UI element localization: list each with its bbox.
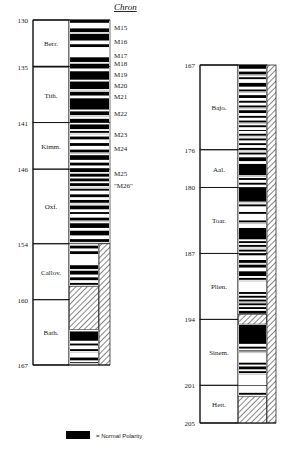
normal-polarity-band	[70, 57, 109, 62]
normal-polarity-band	[239, 241, 266, 243]
normal-polarity-band	[239, 95, 266, 98]
normal-polarity-band	[239, 187, 266, 201]
normal-polarity-band	[70, 246, 98, 249]
chron-label: M15	[114, 24, 128, 32]
normal-polarity-band	[239, 245, 266, 247]
normal-polarity-band	[70, 265, 98, 269]
stage-label: Toar.	[212, 217, 226, 225]
age-tick-label: 146	[18, 166, 29, 174]
chron-label: M24	[114, 145, 128, 153]
normal-polarity-band	[239, 253, 266, 255]
stage-label: Sinem.	[209, 349, 229, 357]
age-tick-label: 167	[18, 362, 29, 370]
normal-polarity-band	[239, 157, 266, 161]
polarity-segment	[238, 253, 267, 319]
normal-polarity-band	[70, 194, 109, 197]
normal-polarity-band	[70, 174, 109, 177]
normal-polarity-band	[70, 331, 98, 340]
chron-label: M22	[114, 110, 128, 118]
normal-polarity-band	[70, 206, 109, 210]
normal-polarity-band	[70, 82, 109, 89]
normal-polarity-band	[70, 277, 98, 280]
age-tick-label: 176	[185, 147, 196, 155]
normal-polarity-band	[70, 71, 109, 79]
normal-polarity-band	[70, 212, 109, 214]
normal-polarity-band	[70, 34, 109, 41]
normal-polarity-band	[239, 116, 266, 118]
chron-label: M19	[114, 71, 128, 79]
legend: = Normal Polarity	[66, 431, 142, 439]
age-tick-label: 141	[18, 120, 29, 128]
age-tick-label: 201	[185, 382, 196, 390]
normal-polarity-band	[70, 124, 109, 129]
hatched-polarity-interval	[70, 287, 99, 330]
normal-polarity-band	[70, 119, 109, 123]
legend-label: = Normal Polarity	[96, 433, 142, 439]
age-tick-label: 167	[185, 62, 196, 70]
normal-polarity-band	[239, 134, 266, 136]
stage-label: Plien.	[211, 283, 227, 291]
age-tick-label: 135	[18, 64, 29, 72]
right-timescale-column: Bajo.Aal.Toar.Plien.Sinem.Hett.167176180…	[185, 62, 277, 428]
age-tick-label: 187	[185, 250, 196, 258]
stage-label: Aal.	[213, 166, 225, 174]
normal-polarity-band	[239, 265, 266, 268]
stage-label: Oxf.	[45, 203, 58, 211]
normal-polarity-band	[239, 72, 266, 75]
chron-label: M17	[114, 52, 128, 60]
normal-polarity-band	[239, 228, 266, 239]
left-timescale-column: Berr.Tith.Kimm.Oxf.Callov.Bath.130135141…	[18, 17, 134, 370]
normal-polarity-band	[239, 300, 266, 302]
normal-polarity-band	[239, 363, 266, 365]
normal-polarity-band	[70, 283, 98, 285]
normal-polarity-band	[70, 251, 98, 254]
normal-polarity-band	[239, 83, 266, 87]
normal-polarity-band	[239, 350, 266, 351]
age-tick-label: 130	[18, 17, 29, 25]
chron-header: Chron	[114, 2, 137, 12]
normal-polarity-band	[239, 311, 266, 314]
chron-label: M23	[114, 131, 128, 139]
normal-polarity-band	[239, 271, 266, 276]
normal-polarity-band	[239, 77, 266, 79]
normal-polarity-band	[239, 164, 266, 175]
normal-polarity-band	[70, 137, 109, 140]
normal-polarity-band	[70, 92, 109, 96]
normal-polarity-band	[239, 325, 266, 344]
stage-label: Bath.	[44, 329, 59, 337]
normal-polarity-band	[239, 183, 266, 185]
age-tick-label: 154	[18, 241, 29, 249]
normal-polarity-band	[239, 138, 266, 140]
normal-polarity-band	[70, 28, 109, 32]
normal-polarity-band	[239, 292, 266, 294]
stage-label: Kimm.	[41, 143, 61, 151]
normal-polarity-band	[239, 178, 266, 180]
normal-polarity-band	[239, 260, 266, 263]
normal-polarity-band	[70, 143, 109, 146]
normal-polarity-band	[239, 125, 266, 127]
normal-polarity-band	[239, 393, 266, 395]
normal-polarity-band	[70, 200, 109, 203]
normal-polarity-band	[239, 347, 266, 349]
normal-polarity-band	[70, 239, 109, 242]
normal-polarity-band	[239, 121, 266, 123]
normal-polarity-band	[239, 371, 266, 373]
stage-label: Bajo.	[212, 104, 227, 112]
chron-label: M20	[114, 82, 128, 90]
stage-label: Berr.	[44, 40, 58, 48]
normal-polarity-band	[70, 344, 98, 346]
normal-polarity-band	[70, 231, 109, 236]
normal-polarity-band	[239, 204, 266, 206]
normal-polarity-band	[70, 362, 98, 363]
hatched-polarity-interval	[239, 315, 267, 324]
age-tick-label: 194	[185, 316, 196, 324]
hatched-polarity-interval	[239, 397, 267, 423]
normal-polarity-band	[239, 130, 266, 131]
normal-polarity-band	[70, 189, 109, 191]
normal-polarity-band	[239, 89, 266, 91]
stage-label: Callov.	[41, 269, 61, 277]
normal-polarity-band	[70, 155, 109, 160]
normal-polarity-band	[239, 143, 266, 145]
normal-polarity-band	[70, 98, 109, 109]
normal-polarity-band	[70, 44, 109, 47]
